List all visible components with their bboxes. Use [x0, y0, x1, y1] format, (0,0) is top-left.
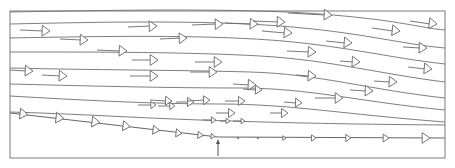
streamline — [10, 52, 445, 82]
velocity-arrowhead-icon — [248, 79, 256, 90]
velocity-vector-shaft — [326, 41, 345, 43]
velocity-arrowhead-icon — [419, 42, 427, 53]
velocity-arrowhead-icon — [229, 109, 236, 118]
diagram-frame — [10, 11, 445, 158]
wall-velocity-arrowhead-icon — [422, 133, 430, 144]
velocity-vector-shaft — [150, 100, 167, 101]
velocity-vector-shaft — [128, 26, 150, 27]
velocity-vector-shaft — [410, 21, 430, 24]
streamline — [10, 36, 445, 64]
velocity-arrowhead-icon — [255, 85, 262, 94]
velocity-arrowhead-icon — [150, 55, 158, 66]
velocity-arrowhead-icon — [282, 109, 289, 118]
velocity-vector-shaft — [97, 50, 120, 51]
velocity-vector-shaft — [243, 89, 257, 90]
wall-velocity-arrowhead-icon — [198, 131, 204, 139]
streamline — [10, 22, 445, 48]
velocity-arrowhead-icon — [188, 98, 195, 107]
velocity-arrowhead-icon — [308, 46, 316, 57]
velocity-arrowhead-icon — [335, 93, 343, 104]
wall-streamline-group — [10, 113, 445, 138]
velocity-vector-shaft — [374, 81, 390, 82]
zero-velocity-dot — [237, 137, 239, 139]
wall-velocity-arrowhead-icon — [283, 136, 286, 141]
velocity-arrowhead-icon — [344, 37, 353, 48]
velocity-arrowhead-icon — [352, 56, 360, 67]
velocity-vector-shaft — [233, 84, 249, 85]
velocity-vector-shaft — [284, 102, 297, 103]
velocity-arrowhead-icon — [42, 25, 50, 36]
velocity-arrowhead-icon — [250, 18, 258, 29]
velocity-vector-shaft — [408, 67, 425, 69]
velocity-vector-shaft — [262, 31, 285, 33]
velocity-vector-shaft — [287, 51, 309, 52]
wall-velocity-arrowhead-icon — [176, 129, 183, 138]
velocity-arrowhead-icon — [150, 71, 158, 82]
wall-velocity-arrowhead-icon — [122, 121, 130, 132]
velocity-vector-shaft — [42, 75, 60, 76]
velocity-arrowhead-icon — [80, 34, 88, 45]
velocity-arrowhead-icon — [429, 18, 438, 30]
wall-velocity-arrowhead-icon — [211, 133, 215, 139]
streamline — [10, 96, 445, 122]
velocity-arrowhead-icon — [308, 70, 316, 81]
velocity-arrowhead-icon — [25, 65, 33, 76]
velocity-arrowhead-icon — [226, 118, 230, 123]
streamline — [10, 68, 445, 98]
velocity-arrowhead-icon — [209, 67, 217, 78]
velocity-arrowhead-icon — [424, 63, 433, 74]
velocity-arrowhead-icon — [203, 96, 210, 105]
velocity-vector-shaft — [340, 61, 353, 62]
velocity-arrowhead-icon — [119, 45, 127, 56]
velocity-vector-shaft — [253, 21, 278, 22]
velocity-arrowhead-icon — [215, 19, 223, 30]
wall-velocity-arrowhead-icon — [383, 134, 389, 142]
velocity-vector-shaft — [192, 24, 216, 25]
velocity-arrowhead-icon — [392, 25, 401, 37]
velocity-arrowhead-icon — [59, 70, 67, 81]
velocity-vector-shaft — [10, 70, 26, 71]
velocity-vector-shaft — [403, 47, 420, 48]
velocity-arrowhead-icon — [211, 117, 216, 123]
streamlines-group — [10, 10, 445, 125]
wall-streamline — [10, 113, 445, 138]
wall-velocity-arrowhead-icon — [153, 125, 160, 135]
wall-velocity-arrowhead-icon — [311, 135, 316, 141]
streamline-diagram — [0, 0, 455, 168]
separation-point-arrow-icon — [216, 139, 220, 156]
velocity-vector-shaft — [350, 90, 366, 91]
velocity-arrowhead-icon — [179, 33, 187, 44]
velocity-vectors-group — [10, 9, 438, 143]
streamline — [10, 84, 445, 110]
velocity-arrowhead-icon — [214, 57, 222, 68]
velocity-vector-shaft — [160, 38, 180, 39]
streamline — [10, 10, 445, 30]
wall-velocity-arrowhead-icon — [19, 108, 28, 120]
zero-velocity-dot — [257, 137, 259, 139]
wall-velocity-arrowhead-icon — [91, 116, 100, 128]
velocity-arrowhead-icon — [295, 98, 302, 107]
velocity-vector-shaft — [20, 30, 43, 31]
velocity-arrowhead-icon — [241, 118, 245, 123]
velocity-arrowhead-icon — [284, 27, 293, 38]
wall-velocity-arrowhead-icon — [346, 134, 351, 141]
velocity-vector-shaft — [372, 28, 393, 31]
velocity-vector-shaft — [60, 39, 81, 40]
velocity-vector-shaft — [225, 23, 251, 24]
velocity-arrowhead-icon — [389, 76, 397, 87]
